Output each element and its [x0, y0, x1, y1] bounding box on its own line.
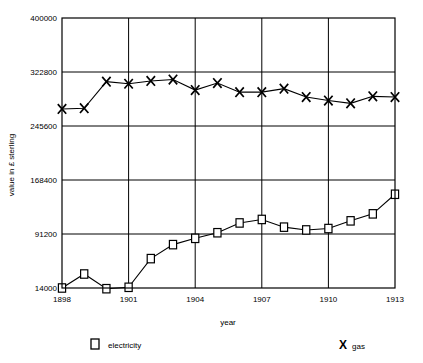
data-point-electricity	[81, 270, 88, 278]
y-axis-title: value in £ sterling	[7, 134, 16, 196]
x-tick-label: 1910	[320, 295, 338, 304]
data-point-electricity	[369, 210, 376, 218]
x-tick-label: 1913	[386, 295, 404, 304]
y-tick-label: 91200	[35, 230, 58, 239]
data-point-electricity	[347, 217, 354, 225]
data-point-electricity	[169, 240, 176, 248]
x-tick-label: 1904	[186, 295, 204, 304]
data-point-electricity	[236, 219, 243, 227]
data-point-electricity	[147, 254, 154, 262]
y-tick-label: 168400	[30, 176, 57, 185]
data-point-electricity	[103, 285, 110, 293]
y-tick-label: 14000	[35, 284, 58, 293]
data-point-electricity	[192, 234, 199, 242]
data-point-electricity	[214, 229, 221, 237]
legend-label-electricity: electricity	[108, 341, 141, 350]
y-tick-label: 245600	[30, 122, 57, 131]
line-chart: 1400091200168400245600322800400000 18981…	[0, 0, 423, 363]
data-point-electricity	[280, 223, 287, 231]
chart-container: 1400091200168400245600322800400000 18981…	[0, 0, 423, 363]
legend-label-gas: gas	[352, 342, 365, 351]
data-point-electricity	[303, 226, 310, 234]
chart-background	[0, 0, 423, 363]
x-tick-label: 1907	[253, 295, 271, 304]
data-point-electricity	[258, 215, 265, 223]
x-axis-title: year	[220, 318, 236, 327]
data-point-electricity	[325, 224, 332, 232]
y-tick-label: 400000	[30, 14, 57, 23]
y-tick-label: 322800	[30, 68, 57, 77]
legend-marker-gas-icon: X	[339, 338, 347, 352]
data-point-electricity	[125, 283, 132, 291]
x-tick-label: 1901	[120, 295, 138, 304]
x-tick-label: 1898	[53, 295, 71, 304]
